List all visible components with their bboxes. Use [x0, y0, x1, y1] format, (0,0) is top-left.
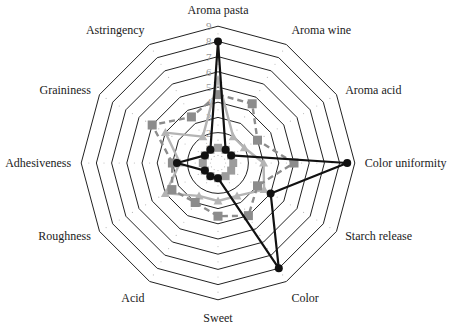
circle-marker-icon: [275, 264, 283, 272]
axis-label: Aroma wine: [291, 23, 351, 37]
axis-label: Astringency: [86, 23, 145, 37]
axis-label: Color uniformity: [365, 156, 447, 170]
grid-tick-dot: [217, 170, 218, 171]
circle-marker-icon: [227, 151, 235, 159]
grid-tick-dot: [211, 166, 212, 167]
grid-tick-dot: [303, 113, 304, 114]
grid-tick-dot: [191, 208, 192, 209]
tick-label: 8: [206, 35, 212, 47]
axis-label: Aroma pasta: [188, 3, 250, 17]
grid-tick-dot: [88, 162, 89, 163]
grid-tick-dot: [132, 212, 133, 213]
square-marker-icon: [167, 185, 176, 194]
grid-tick-dot: [229, 182, 230, 183]
grid-tick-dot: [184, 181, 185, 182]
grid-tick-dot: [217, 33, 218, 34]
grid-tick-dot: [282, 51, 283, 52]
grid-tick-dot: [210, 162, 211, 163]
grid-tick-dot: [316, 219, 317, 220]
grid-tick-dot: [176, 90, 177, 91]
grid-tick-dot: [168, 248, 169, 249]
axis-label: Roughness: [38, 229, 91, 243]
square-marker-icon: [214, 144, 222, 152]
axis-label: Adhesiveness: [5, 156, 71, 170]
grid-tick-dot: [106, 98, 107, 99]
grid-tick-dot: [221, 169, 222, 170]
grid-tick-dot: [132, 113, 133, 114]
grid-tick-dot: [229, 143, 230, 144]
grid-tick-dot: [119, 162, 120, 163]
square-marker-icon: [222, 172, 230, 180]
grid-ring: [81, 26, 355, 300]
grid-tick-dot: [316, 105, 317, 106]
grid-tick-dot: [217, 231, 218, 232]
grid-tick-dot: [160, 64, 161, 65]
circle-marker-icon: [206, 146, 214, 154]
grid-tick-dot: [252, 222, 253, 223]
grid-tick-dot: [217, 246, 218, 247]
grid-tick-dot: [282, 274, 283, 275]
axis-label: Acid: [121, 291, 144, 305]
grid-tick-dot: [198, 174, 199, 175]
grid-tick-dot: [303, 212, 304, 213]
grid-tick-dot: [250, 143, 251, 144]
circle-marker-icon: [214, 37, 222, 45]
square-marker-icon: [191, 198, 200, 207]
grid-tick-dot: [277, 197, 278, 198]
grid-tick-dot: [255, 162, 256, 163]
grid-tick-dot: [183, 103, 184, 104]
grid-tick-dot: [240, 162, 241, 163]
grid-tick-dot: [160, 261, 161, 262]
circle-marker-icon: [214, 174, 222, 182]
grid-tick-dot: [274, 64, 275, 65]
grid-tick-dot: [225, 162, 226, 163]
circle-marker-icon: [173, 159, 181, 167]
square-marker-icon: [187, 112, 196, 121]
square-marker-icon: [253, 181, 262, 190]
grid-tick-dot: [217, 185, 218, 186]
grid-tick-dot: [176, 235, 177, 236]
grid-tick-dot: [217, 124, 218, 125]
grid-tick-dot: [158, 197, 159, 198]
grid-tick-dot: [164, 162, 165, 163]
grid-tick-dot: [221, 156, 222, 157]
square-marker-icon: [253, 136, 262, 145]
tick-label: 5: [206, 81, 212, 93]
square-marker-icon: [148, 121, 157, 130]
tick-label: 7: [206, 51, 212, 63]
grid-tick-dot: [183, 222, 184, 223]
grid-ring: [127, 72, 309, 254]
grid-tick-dot: [237, 151, 238, 152]
grid-tick-dot: [119, 219, 120, 220]
circle-marker-icon: [267, 189, 275, 197]
triangle-marker-icon: [229, 132, 238, 140]
grid-tick-dot: [244, 116, 245, 117]
grid-tick-dot: [290, 121, 291, 122]
data-series: [148, 37, 352, 272]
grid-tick-dot: [214, 169, 215, 170]
axis-labels: Aroma pastaAroma wineAroma acidColor uni…: [5, 3, 446, 325]
square-marker-icon: [214, 212, 223, 221]
grid-tick-dot: [277, 128, 278, 129]
grid-tick-dot: [217, 109, 218, 110]
grid-tick-dot: [149, 162, 150, 163]
grid-tick-dot: [153, 51, 154, 52]
axis-label: Aroma acid: [345, 83, 401, 97]
grid-tick-dot: [153, 274, 154, 275]
grid-tick-dot: [206, 182, 207, 183]
grid-tick-dot: [236, 129, 237, 130]
tick-label: 9: [206, 20, 212, 32]
grid-tick-dot: [198, 151, 199, 152]
tick-label: 6: [206, 66, 212, 78]
grid-tick-dot: [184, 143, 185, 144]
grid-tick-dot: [119, 105, 120, 106]
grid-tick-dot: [271, 162, 272, 163]
grid-tick-dot: [237, 174, 238, 175]
grid-tick-dot: [145, 121, 146, 122]
grid-tick-dot: [259, 90, 260, 91]
circle-marker-icon: [343, 159, 351, 167]
grid-tick-dot: [244, 208, 245, 209]
grid-tick-dot: [211, 159, 212, 160]
grid-tick-dot: [329, 227, 330, 228]
grid-tick-dot: [158, 128, 159, 129]
